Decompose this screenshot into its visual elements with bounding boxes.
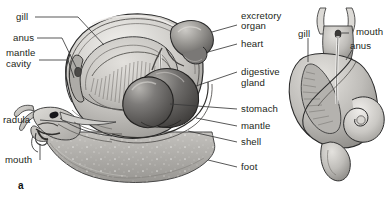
label-radula: radula	[3, 115, 30, 126]
leader-excretory-organ	[212, 25, 237, 32]
anus-opening	[75, 67, 82, 76]
label-mantle-cavity: cavity	[6, 59, 31, 70]
label-heart: heart	[241, 39, 263, 50]
stomach-structure	[123, 77, 173, 128]
label-digestive: digestive	[241, 67, 280, 78]
main-snail-view	[14, 14, 237, 183]
leader-foot	[208, 160, 237, 167]
label-shell: shell	[241, 137, 261, 148]
label-gland: gland	[241, 78, 265, 89]
inset-label-mouth: mouth	[356, 27, 383, 38]
anatomy-figure: gill anus mantle cavity radula mouth exc…	[0, 0, 389, 197]
inset-label-anus: anus	[350, 41, 371, 52]
snail-anatomy-illustration	[0, 0, 389, 197]
label-mouth: mouth	[5, 155, 32, 166]
inset-label-gill: gill	[298, 29, 310, 40]
leader-mantle	[196, 118, 237, 126]
label-gill: gill	[16, 12, 28, 23]
label-mantle-right: mantle	[241, 121, 270, 132]
label-mantle: mantle	[6, 48, 35, 59]
label-organ: organ	[241, 21, 266, 32]
label-stomach: stomach	[241, 104, 278, 115]
panel-label: a	[18, 180, 24, 191]
label-foot: foot	[241, 162, 257, 173]
label-anus: anus	[13, 33, 34, 44]
